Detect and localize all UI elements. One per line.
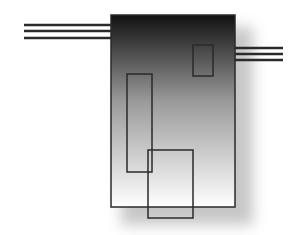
left-connector-lines <box>24 25 111 38</box>
diagram-canvas <box>0 0 305 235</box>
main-block <box>111 15 235 207</box>
